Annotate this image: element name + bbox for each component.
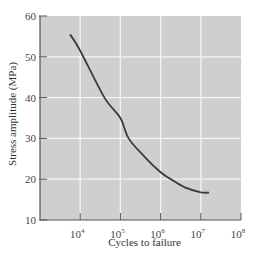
y-tick-label: 20 (25, 173, 37, 185)
y-tick-label: 50 (25, 51, 37, 63)
x-axis-title: Cycles to failure (108, 236, 181, 248)
plot-area (40, 16, 241, 220)
y-tick-label: 10 (25, 214, 37, 226)
y-axis-title: Stress amplitude (MPa) (6, 62, 19, 166)
y-tick-label: 30 (25, 132, 37, 144)
sn-curve-chart: 102030405060 104105106107108 Cycles to f… (0, 0, 260, 260)
y-tick-label: 40 (25, 92, 37, 104)
y-tick-label: 60 (25, 10, 37, 22)
x-tick-label: 104 (70, 227, 85, 240)
x-tick-label: 108 (231, 227, 246, 240)
x-tick-label: 107 (191, 227, 206, 240)
